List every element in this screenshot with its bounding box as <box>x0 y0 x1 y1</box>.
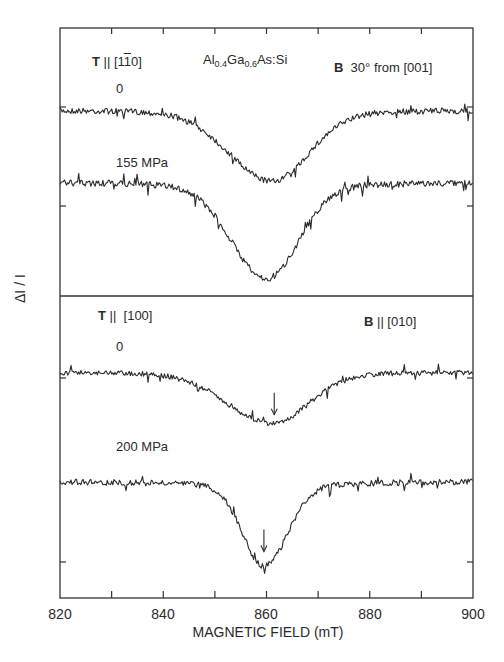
sample-ga: Ga <box>227 52 244 67</box>
sample-rest: As:Si <box>257 52 287 67</box>
lower-curve2-label: 200 MPa <box>116 440 168 453</box>
field-symbol: B <box>334 60 343 75</box>
lower-stress-label: T || [100] <box>98 309 152 322</box>
upper-curve2-label: 155 MPa <box>116 156 168 169</box>
upper-stress-label: T || [110] <box>92 55 142 68</box>
resonance-arrows <box>261 393 277 552</box>
stress-dir-b: 0] <box>131 54 142 69</box>
x-tick-label: 900 <box>461 606 484 622</box>
x-axis-title: MAGNETIC FIELD (mT) <box>193 624 344 640</box>
stress-symbol: T <box>92 54 100 69</box>
field-dir: || [010] <box>373 314 416 329</box>
field-dir: 30° from [001] <box>343 60 432 75</box>
stress-symbol: T <box>98 308 106 323</box>
field-symbol: B <box>364 314 373 329</box>
upper-curve1-label: 0 <box>116 82 123 95</box>
y-axis-title: ΔI / I <box>12 274 28 303</box>
x-tick-label: 860 <box>254 606 277 622</box>
stress-dir: || [100] <box>106 308 153 323</box>
stress-dir-a: || [1 <box>100 54 124 69</box>
sample-label: Al0.4Ga0.6As:Si <box>203 53 287 69</box>
x-tick-label: 840 <box>151 606 174 622</box>
chart-canvas <box>0 0 504 662</box>
stress-dir-bar: 1 <box>124 54 131 69</box>
sample-ga-frac: 0.6 <box>244 59 257 69</box>
sample-al-frac: 0.4 <box>215 59 228 69</box>
sample-al: Al <box>203 52 215 67</box>
x-tick-label: 880 <box>358 606 381 622</box>
lower-field-label: B || [010] <box>364 315 416 328</box>
upper-field-label: B 30° from [001] <box>334 61 432 74</box>
lower-curve1-label: 0 <box>116 340 123 353</box>
x-tick-label: 820 <box>48 606 71 622</box>
